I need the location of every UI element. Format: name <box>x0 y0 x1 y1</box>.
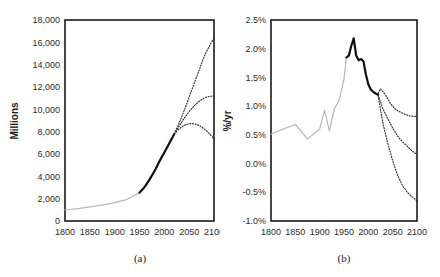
y-tick-label: 8,000 <box>37 127 60 137</box>
x-tick-label: 1850 <box>80 227 100 237</box>
x-tick-label: 1950 <box>129 227 149 237</box>
x-tick-label: 2100 <box>407 227 427 237</box>
y-tick-label: 6,000 <box>37 149 60 159</box>
y-tick-label: 14,000 <box>32 60 60 70</box>
chart-panel-a: 02,0004,0006,0008,00010,00012,00014,0001… <box>0 0 220 277</box>
chart-b-svg: -1.0%-0.5%0.0%0.5%1.0%1.5%2.0%2.5% 18001… <box>220 0 440 277</box>
plot-frame-b <box>271 20 417 221</box>
y-tick-label: 12,000 <box>32 82 60 92</box>
y-tick-label: 0.0% <box>245 159 266 169</box>
y-tick-label: 10,000 <box>32 105 60 115</box>
y-tick-label: 1.5% <box>245 73 266 83</box>
panel-caption-b: (b) <box>338 252 351 265</box>
x-axis-ticks-a: 1800185019001950200020502100 <box>55 227 220 237</box>
x-tick-label: 1900 <box>310 227 330 237</box>
chart-panel-b: -1.0%-0.5%0.0%0.5%1.0%1.5%2.0%2.5% 18001… <box>220 0 440 277</box>
x-tick-label: 1800 <box>55 227 75 237</box>
y-tick-label: 1.0% <box>245 101 266 111</box>
x-tick-label: 2000 <box>358 227 378 237</box>
x-tick-label: 1950 <box>334 227 354 237</box>
y-tick-label: 0.5% <box>245 130 266 140</box>
panel-caption-a: (a) <box>134 252 147 265</box>
y-axis-title-b: %/yr <box>222 110 233 131</box>
y-tick-label: 2.5% <box>245 15 266 25</box>
chart-a-svg: 02,0004,0006,0008,00010,00012,00014,0001… <box>0 0 220 277</box>
x-tick-label: 1850 <box>285 227 305 237</box>
plot-frame-a <box>65 20 214 221</box>
x-tick-label: 1800 <box>261 227 281 237</box>
x-tick-label: 1900 <box>105 227 125 237</box>
population-projection-figure: 02,0004,0006,0008,00010,00012,00014,0001… <box>0 0 440 277</box>
y-tick-label: 16,000 <box>32 38 60 48</box>
x-tick-label: 2100 <box>204 227 220 237</box>
y-tick-label: -0.5% <box>242 187 266 197</box>
y-axis-ticks-b: -1.0%-0.5%0.0%0.5%1.0%1.5%2.0%2.5% <box>242 15 266 226</box>
x-tick-label: 2000 <box>154 227 174 237</box>
x-tick-label: 2050 <box>383 227 403 237</box>
x-tick-label: 2050 <box>179 227 199 237</box>
y-tick-label: 4,000 <box>37 172 60 182</box>
y-tick-label: 0 <box>55 216 60 226</box>
y-tick-label: 2,000 <box>37 194 60 204</box>
y-axis-title-a: Millions <box>9 102 20 140</box>
y-axis-ticks-a: 02,0004,0006,0008,00010,00012,00014,0001… <box>32 15 60 226</box>
y-tick-label: -1.0% <box>242 216 266 226</box>
y-tick-label: 18,000 <box>32 15 60 25</box>
y-tick-label: 2.0% <box>245 44 266 54</box>
x-axis-ticks-b: 1800185019001950200020502100 <box>261 227 427 237</box>
